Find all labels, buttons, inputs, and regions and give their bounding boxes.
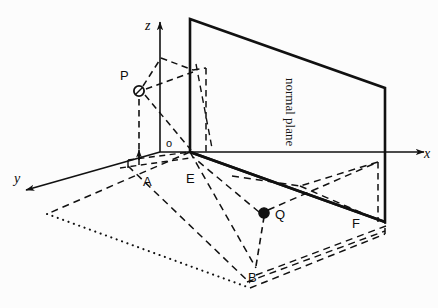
diagram-canvas: z x y o P Q A B E F normal plane [0,0,438,308]
point-label-B: B [248,270,257,285]
y-axis [26,152,160,190]
geometry-figure: z x y o P Q A B E F normal plane [0,0,438,308]
z-axis-label: z [144,18,151,33]
origin-label: o [166,137,172,149]
point-q-marker [259,208,269,218]
normal-plane-label: normal plane [283,78,298,146]
point-label-Q: Q [275,207,285,222]
point-label-E: E [186,171,195,186]
x-axis-label: x [423,146,431,161]
y-axis-label: y [12,171,21,186]
point-label-F: F [352,216,360,231]
point-label-A: A [143,174,152,189]
point-p-marker [134,86,144,96]
point-label-P: P [120,68,129,83]
